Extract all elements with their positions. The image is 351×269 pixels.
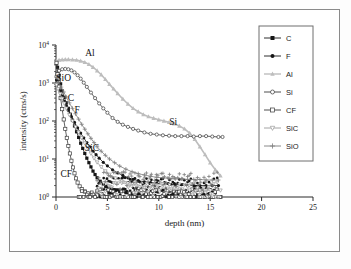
data-marker — [124, 167, 128, 171]
y-tick-label: 103 — [38, 78, 49, 89]
data-marker — [190, 178, 193, 181]
data-marker — [198, 177, 202, 181]
data-marker — [167, 134, 170, 137]
data-marker — [198, 135, 201, 138]
data-marker — [85, 85, 88, 88]
data-marker — [98, 102, 101, 105]
data-marker — [168, 184, 171, 187]
data-marker — [121, 123, 124, 126]
annotation-F: F — [74, 105, 79, 115]
x-tick-label: 20 — [258, 203, 266, 212]
legend-label-Si: Si — [286, 88, 293, 97]
annotation-SiC: SiC — [85, 143, 99, 153]
x-tick-label: 15 — [206, 203, 214, 212]
series-Al — [54, 57, 222, 177]
data-marker — [149, 195, 152, 198]
legend-label-Al: Al — [286, 70, 293, 79]
x-tick-label: 5 — [105, 203, 109, 212]
data-marker — [138, 175, 142, 179]
data-marker — [67, 144, 70, 147]
x-tick-label: 10 — [155, 203, 163, 212]
x-tick-label: 25 — [309, 203, 317, 212]
data-marker — [118, 164, 122, 168]
data-marker — [148, 187, 151, 190]
data-marker — [207, 175, 211, 179]
data-marker — [74, 177, 77, 180]
data-marker — [106, 111, 109, 114]
data-marker — [104, 186, 107, 189]
data-marker — [219, 189, 223, 192]
data-marker — [123, 171, 127, 175]
data-marker — [68, 152, 71, 155]
data-marker — [221, 135, 224, 138]
data-marker — [136, 174, 140, 178]
data-marker — [178, 178, 181, 181]
data-marker — [142, 173, 146, 177]
data-marker — [79, 77, 82, 80]
data-marker — [55, 61, 58, 64]
data-marker — [186, 135, 189, 138]
data-marker — [134, 177, 137, 180]
series-Si — [55, 67, 224, 138]
data-marker — [89, 196, 92, 199]
data-marker — [70, 69, 73, 72]
data-marker — [183, 173, 187, 177]
data-marker — [127, 186, 130, 189]
series-line-SiO — [57, 77, 219, 180]
y-axis-title: intensity (ctns/s) — [18, 91, 28, 151]
data-marker — [105, 196, 108, 199]
x-tick-label: 0 — [54, 203, 58, 212]
data-marker — [112, 190, 115, 193]
data-marker — [115, 189, 118, 192]
annotation-SiO: SiO — [56, 73, 71, 83]
data-marker — [80, 122, 84, 126]
data-marker — [161, 134, 164, 137]
data-marker — [192, 135, 195, 138]
data-marker — [110, 194, 113, 197]
data-marker — [173, 182, 176, 185]
data-marker — [114, 177, 118, 180]
data-marker — [150, 178, 153, 181]
data-marker — [104, 191, 107, 194]
data-marker — [129, 178, 132, 181]
data-marker — [271, 108, 275, 112]
data-marker — [70, 159, 73, 162]
data-marker — [102, 161, 105, 164]
data-marker — [189, 196, 192, 199]
y-tick-label: 100 — [38, 192, 49, 203]
figure-canvas: 0510152025100101102103104depth (nm)inten… — [0, 0, 351, 269]
data-marker — [155, 133, 158, 136]
data-marker — [143, 131, 146, 134]
data-marker — [155, 173, 159, 177]
data-marker — [168, 173, 172, 177]
data-marker — [271, 90, 275, 94]
data-marker — [93, 97, 96, 100]
data-marker — [94, 196, 97, 199]
data-marker — [93, 173, 96, 176]
data-marker — [89, 91, 92, 94]
annotation-Si: Si — [169, 117, 177, 127]
data-marker — [79, 142, 82, 145]
y-tick-label: 102 — [38, 116, 49, 127]
data-marker — [94, 153, 97, 156]
data-marker — [62, 118, 65, 121]
data-marker — [130, 174, 134, 178]
data-marker — [171, 196, 174, 199]
legend-label-SiO: SiO — [286, 142, 299, 151]
legend-label-SiC: SiC — [286, 124, 299, 133]
data-marker — [196, 176, 200, 180]
data-marker — [73, 71, 76, 74]
data-marker — [77, 117, 81, 121]
data-marker — [98, 157, 101, 160]
data-marker — [102, 177, 105, 180]
data-marker — [107, 188, 110, 191]
data-marker — [145, 182, 148, 185]
data-marker — [61, 68, 64, 71]
data-marker — [214, 191, 217, 194]
data-marker — [137, 129, 140, 132]
data-marker — [67, 68, 70, 71]
data-marker — [106, 164, 109, 167]
data-marker — [145, 193, 148, 196]
data-marker — [161, 172, 165, 176]
data-marker — [61, 108, 64, 111]
